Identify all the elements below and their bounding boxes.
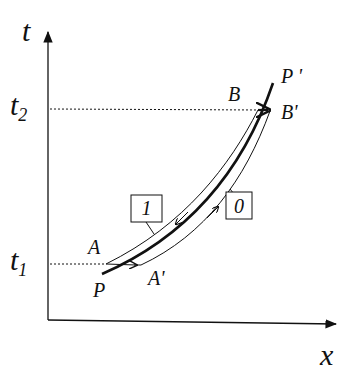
box-0-label: 0 — [226, 196, 252, 216]
x-axis-label: x — [320, 340, 333, 370]
worldline-P — [102, 83, 273, 274]
point-Pprime-label: P ' — [281, 66, 302, 86]
t1-sub: 1 — [18, 260, 27, 280]
point-P-label: P — [93, 280, 105, 300]
point-Aprime-label: A' — [148, 268, 165, 288]
box1-leader — [146, 222, 154, 234]
point-A-label: A — [88, 237, 100, 257]
path-0-arrow-icon — [207, 207, 218, 218]
point-B-label: B — [228, 84, 240, 104]
spacetime-diagram — [0, 0, 357, 376]
t1-label: t1 — [10, 245, 27, 279]
t-axis-label: t — [22, 16, 30, 46]
box-1-label: 1 — [131, 198, 162, 218]
x-axis — [48, 320, 336, 324]
t2-guide — [50, 109, 262, 110]
point-Bprime-label: B' — [281, 102, 298, 122]
path-1-curve — [106, 110, 258, 264]
t2-sub: 2 — [18, 105, 27, 125]
t2-label: t2 — [10, 90, 27, 124]
